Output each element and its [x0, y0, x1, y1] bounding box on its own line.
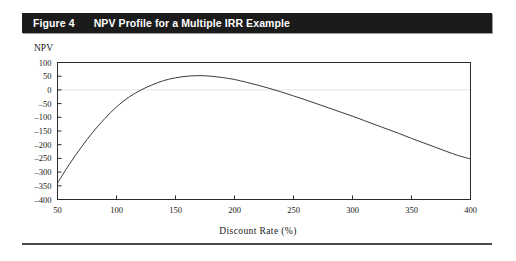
figure-container: Figure 4 NPV Profile for a Multiple IRR …	[0, 0, 516, 261]
x-axis-tick-label: 350	[405, 205, 418, 215]
y-axis-tick-label: –400	[34, 195, 52, 205]
y-axis-tick-label: –150	[34, 126, 52, 136]
y-axis-tick-label: 50	[43, 71, 52, 81]
x-axis-tick-label: 250	[287, 205, 300, 215]
y-axis-tick-label: 100	[39, 58, 52, 68]
x-axis-tick-label: 150	[169, 205, 182, 215]
x-axis-tick-label: 200	[228, 205, 241, 215]
plot-frame	[58, 63, 471, 200]
y-axis-tick-label: –200	[34, 140, 52, 150]
y-axis-tick-label: –300	[34, 167, 52, 177]
x-axis-tick-label: 300	[346, 205, 359, 215]
npv-curve	[58, 76, 471, 183]
figure-bottom-rule	[22, 243, 492, 245]
x-axis-tick-label: 50	[53, 205, 62, 215]
y-axis-tick-label: –250	[34, 153, 52, 163]
x-axis-tick-label: 400	[464, 205, 477, 215]
chart-area: NPV 100500–50–100–150–200–250–300–350–40…	[0, 0, 516, 261]
x-axis-tick-label: 100	[110, 205, 123, 215]
y-axis-tick-label: –350	[34, 181, 52, 191]
npv-profile-plot: 100500–50–100–150–200–250–300–350–400501…	[0, 0, 516, 261]
x-axis-title: Discount Rate (%)	[0, 226, 516, 236]
y-axis-tick-label: 0	[47, 85, 51, 95]
y-axis-tick-label: –50	[38, 99, 52, 109]
y-axis-tick-label: –100	[34, 112, 52, 122]
